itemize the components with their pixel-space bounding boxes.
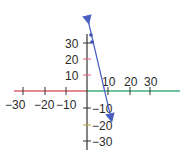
y-tick-label: 20 xyxy=(65,53,79,67)
x-tick-label: −20 xyxy=(34,98,55,112)
x-tick-label: −30 xyxy=(5,98,26,112)
x-tick-label: −10 xyxy=(56,98,77,112)
x-tick-label: 30 xyxy=(144,75,158,89)
line-graph: −30 −20 −10 10 20 30 30 20 10 −10 −20 −3… xyxy=(0,0,190,157)
data-point xyxy=(90,40,94,44)
y-tick-label: −20 xyxy=(92,119,113,133)
y-tick-label: 10 xyxy=(65,69,79,83)
y-tick-label: −30 xyxy=(92,135,113,149)
data-point xyxy=(89,33,93,37)
x-tick-label: 20 xyxy=(124,75,138,89)
y-tick-label: 30 xyxy=(65,37,79,51)
